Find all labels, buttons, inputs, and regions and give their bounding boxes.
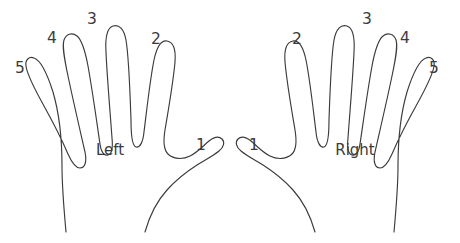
hands-diagram-canvas: 1 2 3 4 5 Left 1 2 3 4 5 Right (0, 0, 460, 243)
hand-diagram-figure: 1 2 3 4 5 Left 1 2 3 4 5 Right (0, 0, 460, 243)
left-hand-labels: 1 2 3 4 5 Left (15, 10, 206, 159)
right-hand-labels: 1 2 3 4 5 Right (249, 10, 439, 159)
left-digit-2-label: 2 (151, 30, 161, 48)
right-hand-group (236, 26, 434, 232)
right-digit-4-label: 4 (400, 29, 410, 47)
right-digit-5-label: 5 (429, 59, 439, 77)
left-digit-3-label: 3 (87, 10, 97, 28)
left-digit-4-label: 4 (47, 29, 57, 47)
right-hand-outline (236, 26, 434, 232)
left-hand-outline (26, 26, 224, 232)
left-hand-group (26, 26, 224, 232)
right-digit-1-label: 1 (249, 136, 259, 154)
left-digit-5-label: 5 (15, 59, 25, 77)
left-digit-1-label: 1 (196, 136, 206, 154)
right-digit-2-label: 2 (292, 30, 302, 48)
right-digit-3-label: 3 (362, 10, 372, 28)
left-hand-caption: Left (96, 141, 124, 159)
right-hand-caption: Right (335, 141, 375, 159)
